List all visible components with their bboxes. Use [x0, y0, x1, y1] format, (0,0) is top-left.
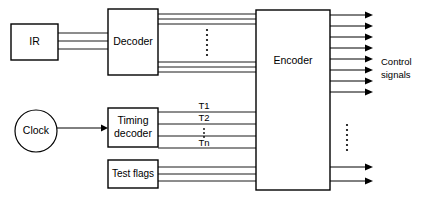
control-out-ellipsis-icon	[346, 124, 348, 151]
signal-label-t2: T2	[198, 112, 209, 123]
wire-group-encoder-outputs-bottom	[330, 163, 373, 184]
block-ir: IR	[11, 24, 58, 60]
block-test-flags: Test flags	[108, 160, 158, 188]
block-timing-decoder: Timing decoder	[108, 108, 158, 147]
control-signals-label-line2: signals	[381, 69, 411, 80]
block-timing-decoder-label-line2: decoder	[114, 127, 152, 139]
block-decoder-label: Decoder	[113, 35, 153, 47]
block-test-flags-label: Test flags	[112, 168, 154, 179]
diagram-canvas: IR Decoder Encoder Clock Timing decoder …	[0, 0, 426, 203]
decoder-bus-ellipsis-icon	[206, 29, 208, 56]
wire-group-encoder-outputs-top	[330, 11, 373, 95]
block-clock-label: Clock	[23, 124, 50, 136]
control-unit-diagram: IR Decoder Encoder Clock Timing decoder …	[0, 0, 426, 203]
wire-group-ir-to-decoder	[58, 33, 108, 49]
wire-clock-to-timing-decoder	[57, 125, 108, 132]
block-timing-decoder-label-line1: Timing	[117, 114, 148, 126]
block-encoder-label: Encoder	[273, 54, 313, 66]
wire-group-testflags-to-encoder	[158, 167, 256, 181]
signal-label-t1: T1	[198, 100, 209, 111]
block-decoder: Decoder	[108, 9, 158, 75]
control-signals-label-line1: Control	[381, 56, 412, 67]
block-clock: Clock	[15, 110, 57, 152]
block-ir-label: IR	[29, 35, 40, 47]
wire-group-decoder-to-encoder-top	[158, 14, 256, 24]
block-encoder: Encoder	[256, 10, 330, 190]
timing-signal-labels: T1 T2 Tn	[198, 100, 209, 148]
wire-group-decoder-to-encoder-bottom	[158, 62, 256, 72]
control-signals-label: Control signals	[381, 56, 412, 80]
signal-label-tn: Tn	[198, 137, 209, 148]
